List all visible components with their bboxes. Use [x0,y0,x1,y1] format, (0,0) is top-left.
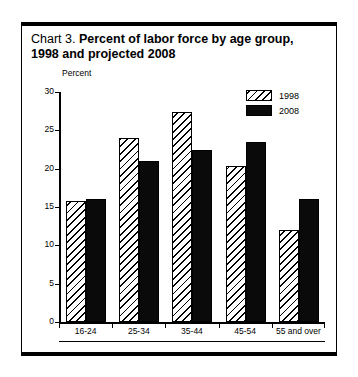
y-axis-tick-label: 0 [49,316,54,326]
category-separator-tick [59,323,60,328]
chart-title-prefix: Chart 3. [31,32,79,46]
y-axis-tick-label: 30 [45,86,54,96]
chart-figure: Chart 3. Percent of labor force by age g… [21,22,337,356]
bar-35-44-2008 [192,150,212,322]
bar-55-and-over-1998 [279,230,299,322]
bar-group [219,92,272,322]
category-separator-tick [165,323,166,328]
x-axis-category-band: 16-2425-3435-4445-5455 and over [59,323,325,342]
y-axis-tick-label: 25 [45,124,54,134]
bar-45-54-2008 [246,142,266,322]
bar-25-34-1998 [119,138,139,322]
bar-35-44-1998 [172,112,192,322]
y-axis-tick-label: 10 [45,239,54,249]
x-axis-category-label: 35-44 [165,326,218,336]
category-separator-tick [272,323,273,328]
plot-area: 302520151050 [59,92,325,322]
x-axis-category-label: 45-54 [219,326,272,336]
y-axis-tick-label: 15 [45,201,54,211]
category-separator-tick [219,323,220,328]
x-axis-category-label: 16-24 [59,326,112,336]
bar-25-34-2008 [139,161,159,322]
bar-16-24-1998 [66,201,86,322]
bar-45-54-1998 [226,166,246,322]
bar-16-24-2008 [86,199,106,322]
category-separator-tick [112,323,113,328]
bar-group [272,92,325,322]
x-axis-category-label: 25-34 [112,326,165,336]
y-axis-tick-label: 20 [45,163,54,173]
bar-group [165,92,218,322]
bars-layer [59,92,325,322]
page-title: Chart 3. Percent of labor force by age g… [31,32,321,61]
y-axis-unit-label: Percent [62,68,91,78]
bar-group [112,92,165,322]
x-axis-category-label: 55 and over [272,326,325,336]
y-axis-tick-label: 5 [49,278,54,288]
bar-55-and-over-2008 [299,199,319,322]
bar-group [59,92,112,322]
